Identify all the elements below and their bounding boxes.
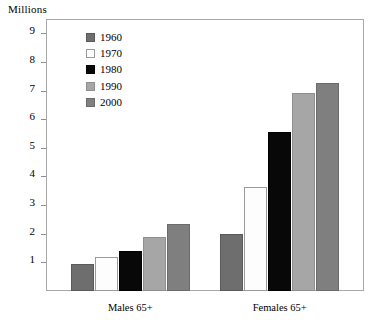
legend-label: 1980 (100, 62, 122, 77)
bar (292, 93, 315, 291)
y-axis-tick-label: 4 (30, 168, 36, 179)
bar (143, 237, 166, 291)
y-axis-tick-label: 8 (30, 54, 36, 65)
legend-item: 1960 (86, 30, 150, 46)
legend-item: 2000 (86, 95, 150, 111)
y-axis-tick-label: 6 (30, 111, 36, 122)
x-axis-label: Males 65+ (108, 302, 153, 314)
legend: 19601970198019902000 (86, 30, 150, 111)
bar (268, 132, 291, 291)
legend-item: 1970 (86, 46, 150, 62)
y-axis-tick-label: 9 (30, 25, 36, 36)
legend-label: 2000 (100, 95, 122, 110)
bar-chart: Millions 987654321 Males 65+Females 65+ … (0, 0, 386, 320)
legend-label: 1960 (100, 30, 122, 45)
legend-swatch (86, 82, 95, 91)
y-axis-tick-label: 5 (30, 140, 36, 151)
bar (244, 187, 267, 292)
y-axis: 987654321 (0, 19, 46, 291)
legend-item: 1990 (86, 79, 150, 95)
bar (167, 224, 190, 291)
y-axis-tick-label: 2 (30, 226, 36, 237)
legend-item: 1980 (86, 62, 150, 78)
legend-label: 1970 (100, 46, 122, 61)
bar (95, 257, 118, 291)
legend-label: 1990 (100, 79, 122, 94)
bar (316, 83, 339, 291)
y-axis-tick-label: 1 (30, 254, 36, 265)
x-axis: Males 65+Females 65+ (46, 291, 364, 320)
legend-swatch (86, 33, 95, 42)
bar-group (220, 19, 339, 291)
x-axis-label: Females 65+ (253, 302, 307, 314)
chart-title: Millions (8, 2, 47, 16)
legend-swatch (86, 98, 95, 107)
y-axis-tick-label: 3 (30, 197, 36, 208)
bar (71, 264, 94, 291)
legend-swatch (86, 65, 95, 74)
bar (220, 234, 243, 291)
bar (119, 251, 142, 291)
legend-swatch (86, 49, 95, 58)
y-axis-tick-label: 7 (30, 83, 36, 94)
